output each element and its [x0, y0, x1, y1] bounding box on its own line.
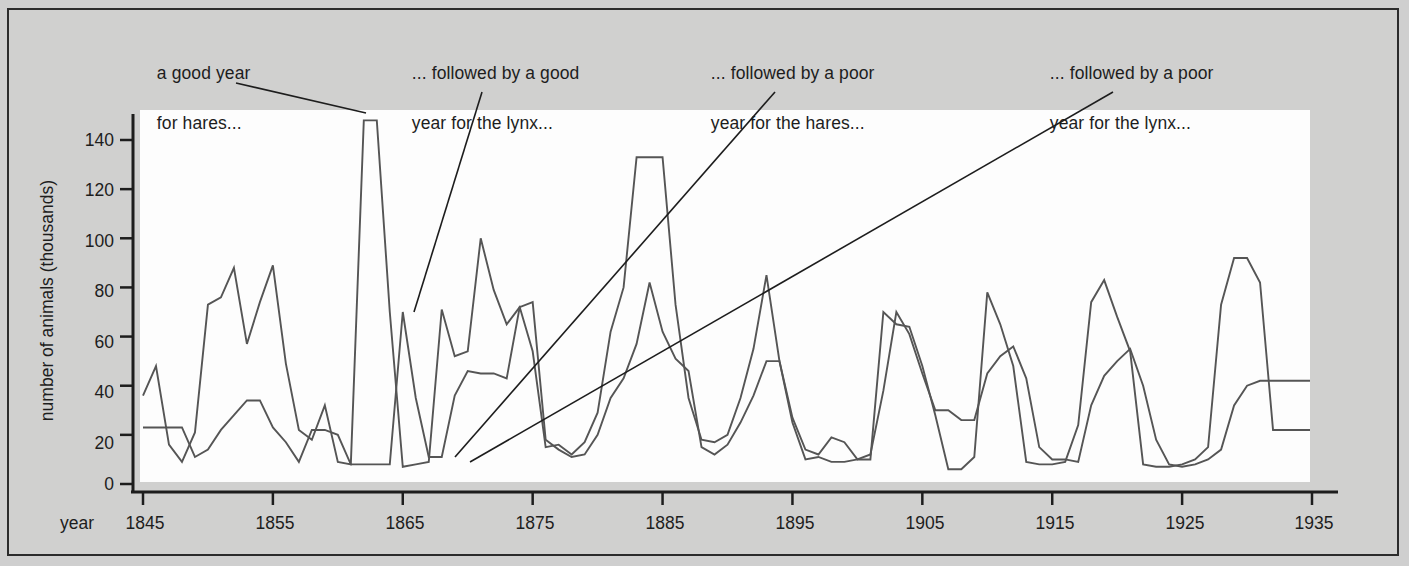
annotation-lynx-good: ... followed by a good year for the lynx… [392, 36, 579, 161]
x-tick-label: 1925 [1150, 513, 1220, 534]
series-line-hare [143, 120, 1312, 469]
y-tick-label: 40 [54, 382, 114, 403]
annotation-line: ... followed by a poor [1050, 63, 1214, 83]
y-tick-label: 60 [54, 332, 114, 353]
annotation-line: for hares... [157, 113, 242, 133]
leader-line-hares-good [236, 83, 366, 113]
x-axis-ticks [143, 492, 1312, 505]
figure-page: 140 120 100 80 60 40 20 0 1845 1855 1865… [0, 0, 1409, 566]
axis-lines [131, 114, 1338, 492]
y-axis-title: number of animals (thousands) [37, 151, 58, 451]
data-series [143, 120, 1312, 469]
x-axis-title: year [60, 513, 94, 534]
annotation-line: year for the lynx... [412, 113, 553, 133]
x-tick-label: 1915 [1020, 513, 1090, 534]
annotation-line: a good year [157, 63, 251, 83]
x-tick-label: 1935 [1279, 513, 1349, 534]
annotation-hares-poor: ... followed by a poor year for the hare… [691, 36, 875, 161]
y-tick-label: 140 [54, 130, 114, 151]
series-line-lynx [143, 283, 1312, 467]
annotation-line: ... followed by a poor [711, 63, 875, 83]
y-axis-ticks [120, 140, 133, 484]
x-tick-label: 1895 [760, 513, 830, 534]
x-tick-label: 1875 [500, 513, 570, 534]
annotation-lynx-poor: ... followed by a poor year for the lynx… [1030, 36, 1214, 161]
annotation-leader-lines [236, 83, 1113, 462]
x-tick-label: 1865 [370, 513, 440, 534]
y-tick-label: 20 [54, 433, 114, 454]
y-tick-label: 120 [54, 180, 114, 201]
annotation-line: ... followed by a good [412, 63, 580, 83]
y-tick-label: 0 [54, 474, 114, 495]
x-tick-label: 1885 [630, 513, 700, 534]
x-tick-label: 1855 [240, 513, 310, 534]
y-tick-label: 100 [54, 231, 114, 252]
x-tick-label: 1845 [110, 513, 180, 534]
annotation-hares-good: a good year for hares... [137, 36, 250, 161]
x-tick-label: 1905 [890, 513, 960, 534]
annotation-line: year for the lynx... [1050, 113, 1191, 133]
y-tick-label: 80 [54, 281, 114, 302]
annotation-line: year for the hares... [711, 113, 865, 133]
